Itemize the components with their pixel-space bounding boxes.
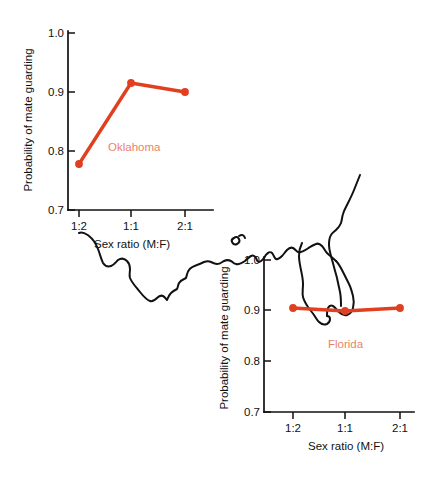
florida-series-annotation: Florida [328,338,364,350]
florida-ylabel-0.8: 0.8 [244,355,260,367]
florida-ylabel-0.9: 0.9 [244,304,260,316]
oklahoma-ylabel-0.7: 0.7 [48,204,64,216]
florida-point-1-2 [289,304,297,312]
oklahoma-point-2-1 [181,88,189,96]
florida-xlabel-1-1: 1:1 [337,422,353,434]
oklahoma-point-1-1 [127,79,135,87]
florida-xlabel-1-2: 1:2 [285,422,301,434]
oklahoma-xlabel-2-1: 2:1 [177,220,193,232]
chart-oklahoma: 1.0 0.9 0.8 0.7 1:2 1:1 2:1 Sex ratio (M… [22,27,213,250]
oklahoma-xlabel-1-1: 1:1 [123,220,139,232]
oklahoma-x-axis-title: Sex ratio (M:F) [94,238,170,250]
florida-x-axis-title: Sex ratio (M:F) [308,440,384,452]
oklahoma-ylabel-0.9: 0.9 [48,86,64,98]
figure-canvas: 1.0 0.9 0.8 0.7 1:2 1:1 2:1 Sex ratio (M… [0,0,442,488]
oklahoma-ylabel-1.0: 1.0 [48,27,64,39]
florida-xlabel-2-1: 2:1 [392,422,408,434]
florida-ylabel-1.0: 1.0 [244,254,260,266]
florida-ylabel-0.7: 0.7 [244,406,260,418]
oklahoma-ylabel-0.8: 0.8 [48,145,64,157]
charts-layer: 1.0 0.9 0.8 0.7 1:2 1:1 2:1 Sex ratio (M… [0,0,442,488]
chart-florida: 1.0 0.9 0.8 0.7 1:2 1:1 2:1 Sex ratio (M… [218,254,414,452]
florida-y-axis-title: Probability of mate guarding [218,266,230,409]
oklahoma-point-1-2 [75,160,83,168]
florida-point-2-1 [396,304,404,312]
oklahoma-y-axis-title: Probability of mate guarding [22,48,34,191]
oklahoma-series-annotation: Oklahoma [108,141,161,153]
florida-point-1-1 [341,307,349,315]
oklahoma-xlabel-1-2: 1:2 [71,220,87,232]
